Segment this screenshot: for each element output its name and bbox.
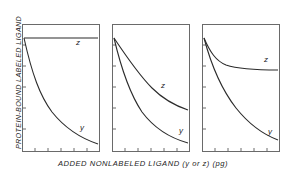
panel-c-label-y: y [268, 128, 272, 136]
figure-root: PROTEIN-BOUND LABELED LIGAND [0, 0, 286, 176]
panel-b-label-y: y [179, 127, 183, 135]
panel-a-y-ticks [23, 45, 27, 129]
panel-c-curve-y [204, 38, 278, 140]
panel-a: z y [22, 24, 100, 152]
panel-c-y-ticks [203, 45, 207, 129]
panel-a-frame [23, 25, 100, 152]
panel-b-frame [113, 25, 190, 152]
panel-a-label-y: y [80, 124, 84, 132]
panel-c-label-z: z [264, 56, 268, 64]
panel-a-curve-y [24, 38, 98, 144]
panel-c: z y [202, 24, 280, 152]
x-axis-title: ADDED NONLABELED LIGAND (y or z) (pg) [0, 159, 286, 168]
panel-b-x-ticks [125, 148, 177, 152]
panel-b-y-ticks [113, 45, 117, 129]
panel-c-curve-z [204, 38, 278, 70]
panel-a-label-z: z [76, 39, 80, 47]
panel-a-plot [22, 24, 100, 152]
panel-b-label-z: z [161, 82, 165, 90]
panel-c-x-ticks [215, 148, 267, 152]
panel-b: z y [112, 24, 190, 152]
panel-a-x-ticks [35, 148, 87, 152]
panel-b-curve-z [114, 38, 188, 110]
